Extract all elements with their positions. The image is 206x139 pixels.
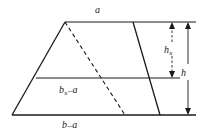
label-total-height: h — [181, 68, 186, 78]
label-bottom-side-operand: a — [72, 119, 77, 130]
label-middle-side-operand: a — [73, 84, 78, 95]
h-arrow-down — [185, 108, 191, 115]
right-side-line — [133, 22, 160, 115]
label-top-side-base: a — [95, 4, 100, 15]
left-side-line — [12, 22, 65, 115]
dashed-diagonal-line — [65, 22, 125, 115]
label-top-side: a — [95, 5, 100, 15]
label-partial-height-subscript: x — [169, 49, 172, 57]
hx-arrow-up — [169, 22, 175, 29]
diagram-canvas — [0, 0, 206, 139]
trapezoid-diagram: a bx–a b–a hx h — [0, 0, 206, 139]
label-bottom-side: b–a — [62, 120, 77, 130]
h-arrow-up — [185, 22, 191, 29]
label-total-height-base: h — [181, 67, 186, 78]
hx-arrow-down — [169, 71, 175, 78]
label-middle-side: bx–a — [59, 85, 78, 97]
label-partial-height: hx — [164, 45, 172, 57]
